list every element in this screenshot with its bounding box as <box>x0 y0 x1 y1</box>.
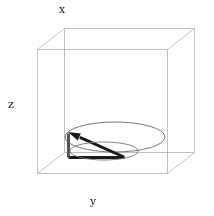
plot-canvas <box>0 0 214 216</box>
axis-label-x: x <box>59 4 65 15</box>
figure-3d-vector-plot: x z y <box>0 0 214 216</box>
axis-label-y: y <box>90 196 96 207</box>
axis-label-z: z <box>8 99 14 110</box>
